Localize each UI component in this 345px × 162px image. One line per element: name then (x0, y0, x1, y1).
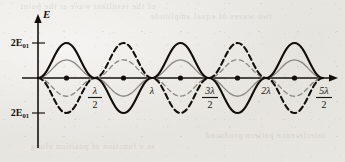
x-tick-3-numerator: 2λ (261, 85, 271, 96)
x-tick-label-4: 5λ 2 (316, 85, 332, 110)
x-tick-4-denominator: 2 (322, 99, 327, 110)
antinode-dot (64, 75, 69, 80)
y-tick-top-subscript: 01 (22, 42, 29, 49)
x-tick-2-numerator: 3λ (204, 85, 215, 96)
x-tick-label-3: 2λ (261, 85, 271, 96)
right-arrow-icon (329, 74, 338, 81)
figure-standing-wave: of the resultant wave at the point two w… (0, 0, 345, 162)
x-tick-1-numerator: λ (149, 85, 155, 96)
antinode-dot (292, 75, 297, 80)
y-tick-label-top: 2E01 (11, 37, 29, 49)
y-tick-bottom-value: 2E (11, 107, 23, 118)
axis-group (22, 14, 338, 148)
antinode-dot (121, 75, 126, 80)
x-tick-0-numerator: λ (92, 85, 98, 96)
x-tick-label-0: λ 2 (88, 85, 102, 110)
y-tick-label-bottom: 2E01 (11, 107, 29, 119)
y-tick-bottom-subscript: 01 (22, 112, 29, 119)
antinode-dot (178, 75, 183, 80)
x-tick-4-numerator: 5λ (319, 85, 329, 96)
x-tick-label-1: λ (149, 85, 155, 96)
x-tick-label-2: 3λ 2 (202, 85, 218, 110)
y-axis-label: E (42, 8, 50, 20)
antinode-dot (235, 75, 240, 80)
x-tick-0-denominator: 2 (93, 99, 98, 110)
up-arrow-icon (34, 14, 41, 23)
y-tick-top-value: 2E (11, 37, 23, 48)
x-tick-2-denominator: 2 (208, 99, 213, 110)
standing-wave-chart: E 2E01 2E01 λ 2 λ 3λ 2 2λ (0, 0, 345, 162)
